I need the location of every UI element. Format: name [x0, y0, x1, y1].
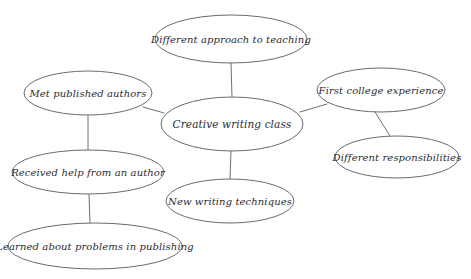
node-label: Different responsibilities [332, 152, 462, 163]
connector-line [231, 63, 232, 97]
node-different-responsibilities[interactable]: Different responsibilities [332, 136, 462, 178]
connector-line [375, 112, 390, 136]
concept-map-svg: Creative writing classDifferent approach… [0, 0, 471, 279]
node-label: First college experience [318, 85, 444, 96]
node-label: Different approach to teaching [150, 34, 311, 45]
node-label: Received help from an author [10, 167, 166, 178]
node-met-published-authors[interactable]: Met published authors [24, 71, 152, 115]
node-different-approach-to-teaching[interactable]: Different approach to teaching [150, 15, 311, 63]
connector-line [300, 104, 327, 112]
connector-line [89, 194, 90, 223]
node-layer: Creative writing classDifferent approach… [0, 15, 461, 269]
node-received-help-from-an-author[interactable]: Received help from an author [10, 150, 166, 194]
node-label: Creative writing class [173, 118, 292, 130]
node-first-college-experience[interactable]: First college experience [317, 68, 445, 112]
node-learned-about-problems-in-publishing[interactable]: Learned about problems in publishing [0, 223, 194, 269]
connector-line [230, 151, 231, 179]
node-label: New writing techniques [167, 196, 292, 207]
concept-map-canvas: Creative writing classDifferent approach… [0, 0, 471, 279]
node-label: Met published authors [29, 88, 147, 99]
connector-line [143, 107, 164, 113]
node-new-writing-techniques[interactable]: New writing techniques [166, 179, 294, 223]
node-creative-writing-class[interactable]: Creative writing class [161, 97, 303, 151]
node-label: Learned about problems in publishing [0, 241, 194, 252]
